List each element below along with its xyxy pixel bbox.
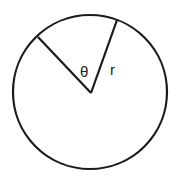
radius-line-right <box>91 20 117 93</box>
theta-label: θ <box>80 63 88 80</box>
radius-label: r <box>110 61 115 78</box>
circle-sector-diagram: θ r <box>0 0 176 179</box>
